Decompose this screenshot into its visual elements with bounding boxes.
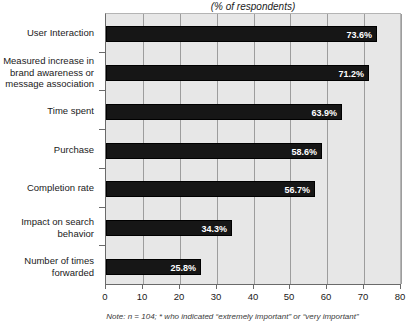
category-axis-tick [99,90,105,91]
value-axis-tick-label: 20 [164,291,194,302]
value-axis-tick-label: 50 [274,291,304,302]
value-axis-tick [179,285,180,289]
value-axis-tick [216,285,217,289]
value-axis-tick-label: 0 [90,291,120,302]
category-label: Time spent [0,105,94,117]
bar[interactable]: 63.9% [106,104,342,120]
category-label: Impact on searchbehavior [0,216,94,239]
value-axis-tick [253,285,254,289]
value-axis-tick [105,285,106,289]
bar[interactable]: 71.2% [106,65,369,81]
category-label: User Interaction [0,27,94,39]
category-label-line: Time spent [47,105,94,116]
bar-row: 34.3% [106,220,402,236]
value-axis-tick [289,285,290,289]
bar-value-label: 25.8% [170,260,196,276]
value-axis-tick-label: 60 [311,291,341,302]
bar[interactable]: 58.6% [106,143,322,159]
bar-row: 25.8% [106,259,402,275]
category-axis-tick [99,245,105,246]
bar-value-label: 56.7% [284,182,310,198]
value-axis-tick [142,285,143,289]
category-label-line: Impact on search [21,216,94,227]
plot-area: 73.6%71.2%63.9%58.6%56.7%34.3%25.8% [105,13,401,284]
category-label-line: message association [5,78,94,89]
value-axis-tick-label: 70 [348,291,378,302]
category-label-line: Number of times [24,255,94,266]
category-label-line: brand awareness or [10,67,94,78]
bar-chart: (% of respondents) 73.6%71.2%63.9%58.6%5… [0,0,410,329]
category-axis-tick [99,168,105,169]
bar[interactable]: 25.8% [106,259,201,275]
bar-row: 56.7% [106,181,402,197]
category-label-line: forwarded [52,267,94,278]
category-label-line: Completion rate [27,182,94,193]
bar-row: 71.2% [106,65,402,81]
category-axis-tick [99,129,105,130]
value-axis-tick-label: 10 [127,291,157,302]
bar-value-label: 71.2% [338,66,364,82]
value-axis-tick-label: 40 [238,291,268,302]
category-axis-tick [99,52,105,53]
value-axis-tick [400,285,401,289]
chart-title: (% of respondents) [105,0,401,13]
bar-row: 63.9% [106,104,402,120]
category-axis-tick [99,207,105,208]
value-axis-tick [326,285,327,289]
bar[interactable]: 73.6% [106,26,377,42]
category-label-line: Purchase [54,144,94,155]
category-axis-labels: User InteractionMeasured increase inbran… [0,13,100,284]
bar[interactable]: 34.3% [106,220,232,236]
bar-row: 73.6% [106,26,402,42]
category-label-line: behavior [58,228,94,239]
category-label-line: User Interaction [27,27,94,38]
category-label: Measured increase inbrand awareness orme… [0,55,94,90]
category-label: Number of timesforwarded [0,255,94,278]
category-label-line: Measured increase in [3,55,94,66]
bar-row: 58.6% [106,143,402,159]
category-label: Completion rate [0,182,94,194]
category-label: Purchase [0,144,94,156]
bar-value-label: 58.6% [291,144,317,160]
chart-footnote: Note: n = 104; * who indicated “extremel… [60,311,405,322]
value-axis-tick-label: 30 [201,291,231,302]
value-axis-tick [363,285,364,289]
bar-value-label: 73.6% [346,27,372,43]
value-axis-tick-label: 80 [385,291,410,302]
bar[interactable]: 56.7% [106,181,315,197]
bar-value-label: 34.3% [201,221,227,237]
bar-value-label: 63.9% [311,105,337,121]
bars-layer: 73.6%71.2%63.9%58.6%56.7%34.3%25.8% [106,14,400,284]
